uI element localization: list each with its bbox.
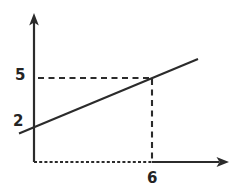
y-axis-intercept-label-2: 2	[13, 114, 23, 129]
data-line	[19, 59, 198, 134]
y-axis-tick-label-5: 5	[15, 68, 25, 83]
x-axis-tick-label-6: 6	[147, 171, 157, 186]
coordinate-plot-svg	[0, 0, 243, 194]
graph-figure: 5 2 6	[0, 0, 243, 194]
